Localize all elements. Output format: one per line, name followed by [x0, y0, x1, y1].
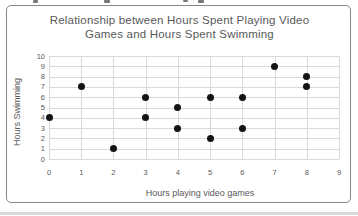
x-tick-label: 2 [103, 168, 123, 177]
y-gridline [49, 97, 339, 98]
clipped-text-fragment [198, 0, 204, 3]
x-tick-label: 7 [265, 168, 285, 177]
y-tick-label: 5 [25, 103, 45, 112]
data-point [303, 83, 310, 90]
data-point [239, 125, 246, 132]
clipped-text-fragment [33, 0, 38, 3]
y-gridline [49, 118, 339, 119]
data-point [303, 73, 310, 80]
y-tick-label: 8 [25, 72, 45, 81]
scatter-chart[interactable]: Relationship between Hours Spent Playing… [6, 5, 351, 203]
y-gridline [49, 138, 339, 139]
data-point [207, 94, 214, 101]
y-tick-label: 3 [25, 124, 45, 133]
x-gridline [339, 56, 340, 159]
y-gridline [49, 149, 339, 150]
data-point [271, 63, 278, 70]
data-point [239, 94, 246, 101]
data-point [207, 135, 214, 142]
y-tick-label: 7 [25, 82, 45, 91]
x-gridline [146, 56, 147, 159]
screenshot-root: Relationship between Hours Spent Playing… [0, 0, 358, 216]
x-gridline [275, 56, 276, 159]
x-tick-label: 3 [136, 168, 156, 177]
y-gridline [49, 66, 339, 67]
y-tick-label: 2 [25, 134, 45, 143]
x-axis-title: Hours playing video games [49, 188, 351, 198]
x-tick-label: 8 [297, 168, 317, 177]
clipped-text-fragment [104, 0, 110, 3]
x-tick-label: 0 [39, 168, 59, 177]
data-point [110, 145, 117, 152]
x-gridline [113, 56, 114, 159]
y-tick-label: 10 [25, 52, 45, 61]
x-tick-label: 4 [168, 168, 188, 177]
y-tick-label: 0 [25, 155, 45, 164]
data-point [78, 83, 85, 90]
y-tick-label: 9 [25, 62, 45, 71]
data-point [174, 104, 181, 111]
y-tick-label: 1 [25, 144, 45, 153]
y-tick-label: 6 [25, 93, 45, 102]
x-gridline [81, 56, 82, 159]
data-point [46, 114, 53, 121]
y-gridline [49, 77, 339, 78]
y-tick-label: 4 [25, 113, 45, 122]
y-gridline [49, 87, 339, 88]
chart-title-line-1: Relationship between Hours Spent Playing… [7, 13, 352, 27]
x-gridline [307, 56, 308, 159]
y-gridline [49, 56, 339, 57]
x-gridline [49, 56, 50, 159]
clipped-text-fragment [183, 0, 188, 2]
y-gridline [49, 128, 339, 129]
x-tick-label: 6 [232, 168, 252, 177]
clipped-content-artifact [0, 212, 358, 215]
data-point [142, 94, 149, 101]
chart-title: Relationship between Hours Spent Playing… [7, 13, 352, 41]
x-gridline [210, 56, 211, 159]
x-gridline [242, 56, 243, 159]
data-point [174, 125, 181, 132]
y-gridline [49, 159, 339, 160]
data-point [142, 114, 149, 121]
x-tick-label: 5 [200, 168, 220, 177]
x-tick-label: 9 [329, 168, 349, 177]
y-gridline [49, 108, 339, 109]
x-tick-label: 1 [71, 168, 91, 177]
chart-title-line-2: Games and Hours Spent Swimming [7, 27, 352, 41]
y-axis-title: Hours Swimming [12, 74, 24, 150]
